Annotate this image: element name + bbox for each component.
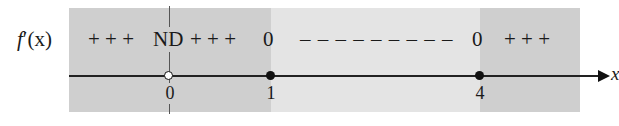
function-label: f′(x) [17,27,52,52]
interval-band-middle [271,8,480,112]
sign-segment: + + + [190,27,236,52]
sign-segment: + + + [88,27,134,52]
sign-segment: – – – – – – – – – [300,27,454,52]
tick-label: 4 [476,83,485,104]
interval-band-right [480,8,580,112]
tick-label: 1 [267,83,276,104]
sign-segment-zero: 0 [263,27,274,52]
x-axis-line [69,75,600,77]
sign-segment-undefined: ND [152,27,184,52]
function-args: (x) [27,27,52,51]
axis-variable-label: x [611,63,619,85]
sign-segment-zero: 0 [472,27,483,52]
open-point-marker [164,71,173,80]
filled-point-marker [475,71,484,80]
tick-label: 0 [164,83,177,104]
axis-arrow-icon [598,70,610,82]
filled-point-marker [266,71,275,80]
sign-segment: + + + [504,27,550,52]
